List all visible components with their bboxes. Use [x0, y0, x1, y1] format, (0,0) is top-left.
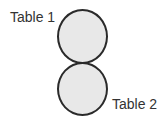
- table-2-label: Table 2: [112, 97, 157, 111]
- table-2-circle: [57, 62, 108, 116]
- table-1-circle: [57, 9, 108, 64]
- table-1-label: Table 1: [10, 10, 55, 24]
